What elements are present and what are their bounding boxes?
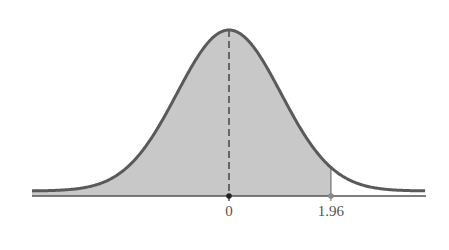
shaded-area [32,30,331,196]
tick-label-1-96: 1.96 [318,203,344,220]
normal-curve-chart: 0 1.96 [0,0,449,250]
tick-label-0: 0 [225,203,233,220]
